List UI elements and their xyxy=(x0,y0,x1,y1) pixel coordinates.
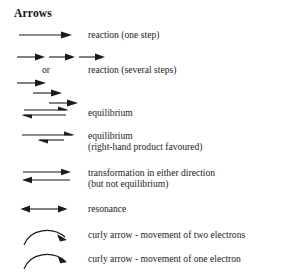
legend-label: transformation in either direction (but … xyxy=(88,167,215,190)
legend-label: curly arrow - movement of two electrons xyxy=(88,229,245,240)
legend-label: reaction (one step) xyxy=(88,29,159,40)
legend-label: reaction (several steps) xyxy=(88,64,176,75)
three-arrows-cascading-right-icon xyxy=(16,78,108,108)
legend-label: curly arrow - movement of one electron xyxy=(88,253,241,264)
legend-label-line1: curly arrow - movement of two electrons xyxy=(88,229,245,240)
or-connector-label: or xyxy=(42,64,50,75)
three-arrows-in-series-right-icon xyxy=(16,50,108,64)
legend-label: equilibrium xyxy=(88,107,133,118)
legend-label: resonance xyxy=(88,203,126,214)
legend-label-line1: curly arrow - movement of one electron xyxy=(88,253,241,264)
arrow-legend-sheet: Arrows reaction (one step) or xyxy=(0,0,285,280)
legend-label-line2: (but not equilibrium) xyxy=(88,178,215,189)
equilibrium-double-half-arrows-icon xyxy=(20,105,80,121)
legend-label-line1: resonance xyxy=(88,203,126,214)
legend-label-line1: transformation in either direction xyxy=(88,167,215,178)
legend-label-line1: reaction (one step) xyxy=(88,29,159,40)
two-full-arrows-opposite-directions-icon xyxy=(20,167,80,185)
double-headed-resonance-arrow-icon xyxy=(20,203,80,215)
single-straight-arrow-right-icon xyxy=(18,28,78,42)
legend-label-line1: equilibrium xyxy=(88,107,133,118)
legend-label-line1: equilibrium xyxy=(88,130,133,141)
curly-arrow-half-head-fishhook-icon xyxy=(22,250,82,272)
legend-label: equilibrium (right-hand product favoured… xyxy=(88,130,203,153)
legend-label-line1: reaction (several steps) xyxy=(88,64,176,75)
equilibrium-unequal-half-arrows-icon xyxy=(20,130,80,146)
curly-arrow-full-head-icon xyxy=(22,226,82,248)
page-title: Arrows xyxy=(14,7,52,19)
legend-label-line2: (right-hand product favoured) xyxy=(88,141,203,152)
